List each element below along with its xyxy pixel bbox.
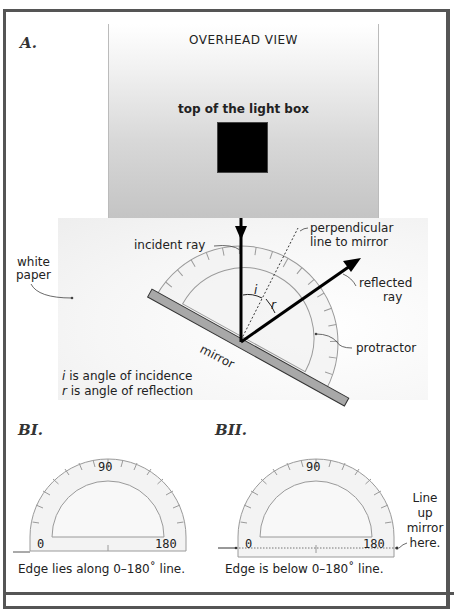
b2-side-note-line3: mirror — [404, 521, 446, 536]
b2-side-note-line1: Line — [404, 491, 446, 506]
b2-tick-180: 180 — [363, 537, 385, 551]
b2-caption: Edge is below 0–180˚ line. — [225, 562, 384, 576]
b2-side-note-line2: up — [404, 506, 446, 521]
b2-side-note-line4: here. — [404, 536, 446, 551]
b2-tick-90: 90 — [306, 460, 320, 474]
b2-tick-0: 0 — [245, 537, 252, 551]
b2-side-note: Line up mirror here. — [404, 491, 446, 551]
protractor-b2 — [0, 0, 458, 609]
